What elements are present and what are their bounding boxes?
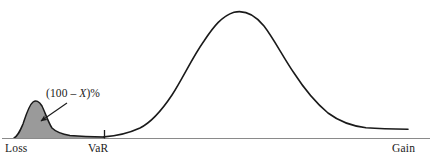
axis-label-var: VaR <box>88 142 108 154</box>
axis-label-loss: Loss <box>5 142 28 154</box>
annotation-prefix: (100 <box>46 87 70 99</box>
var-distribution-figure: (100 – X)% Loss VaR Gain <box>0 0 432 162</box>
tail-probability-annotation: (100 – X)% <box>46 87 100 99</box>
axis-label-gain: Gain <box>392 142 415 154</box>
annotation-suffix: )% <box>86 87 100 99</box>
annotation-minus: – <box>70 87 79 99</box>
main-distribution-curve <box>104 12 408 137</box>
distribution-chart-canvas <box>0 0 432 162</box>
